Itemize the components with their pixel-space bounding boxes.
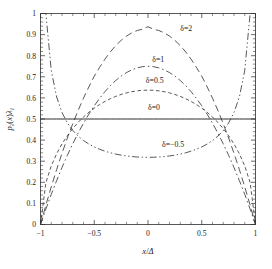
y-axis-title-sub-one: 1	[9, 107, 15, 110]
annotation-label-1: δ=1	[152, 55, 164, 64]
x-tick-label: 0.5	[197, 229, 207, 238]
x-tick-label: 1	[254, 229, 258, 238]
series-annotation-3: δ=0	[147, 103, 163, 112]
x-tick-label: −0.5	[87, 229, 101, 238]
y-tick-label: 0	[32, 220, 36, 229]
x-tick-label: −1	[36, 229, 44, 238]
y-tick-label: 0.4	[27, 136, 37, 145]
y-tick-label: 0.9	[27, 30, 37, 39]
series-annotation-1: δ=1	[151, 55, 167, 64]
annotation-label-4: δ=−0.5	[162, 140, 184, 149]
y-tick-label: 0.6	[27, 94, 37, 103]
x-axis-title-denom: Δ	[148, 246, 154, 256]
y-tick-label: 0.1	[27, 199, 37, 208]
svg-text:pλ(x)λ1: pλ(x)λ1	[4, 107, 15, 131]
annotation-label-2: δ=0.5	[146, 76, 164, 85]
y-tick-label: 1	[32, 9, 36, 18]
probability-density-line-chart: −1−0.500.51 00.10.20.30.40.50.60.70.80.9…	[0, 0, 272, 269]
annotation-label-0: δ=2	[180, 24, 192, 33]
annotation-label-3: δ=0	[148, 103, 160, 112]
y-tick-label: 0.8	[27, 52, 37, 61]
x-tick-label: 0	[146, 229, 150, 238]
series-annotation-0: δ=2	[179, 24, 195, 33]
y-tick-label: 0.3	[27, 157, 37, 166]
y-tick-label: 0.7	[27, 73, 37, 82]
series-annotation-4: δ=−0.5	[160, 140, 189, 149]
y-axis-title: pλ(x)λ1	[4, 107, 15, 131]
series-annotation-2: δ=0.5	[144, 76, 169, 85]
chart-figure: −1−0.500.51 00.10.20.30.40.50.60.70.80.9…	[0, 0, 272, 269]
y-tick-label: 0.2	[27, 178, 37, 187]
x-axis-title: x/Δ	[141, 246, 153, 256]
y-tick-label: 0.5	[27, 115, 37, 124]
svg-text:x/Δ: x/Δ	[141, 246, 153, 256]
